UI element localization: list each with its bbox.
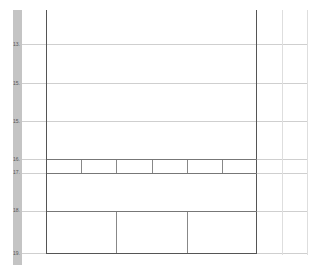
vertical-ruler — [13, 10, 22, 265]
table-cell[interactable] — [188, 212, 257, 253]
table-cell[interactable] — [153, 160, 188, 173]
ruler-label: 18. — [13, 207, 25, 213]
table-cell[interactable] — [188, 160, 223, 173]
guide-line-vertical — [307, 10, 308, 255]
guide-line-vertical — [282, 10, 283, 255]
table-row-three — [47, 211, 257, 254]
table-cell[interactable] — [82, 160, 117, 173]
table-cell[interactable] — [117, 212, 187, 253]
ruler-label: 13. — [13, 41, 25, 47]
ruler-label: 15. — [13, 80, 25, 86]
table-cell[interactable] — [117, 160, 152, 173]
ruler-label: 19. — [13, 250, 25, 256]
ruler-label: 17. — [13, 169, 25, 175]
table-cell[interactable] — [47, 160, 82, 173]
ruler-label: 15. — [13, 118, 25, 124]
table-cell[interactable] — [223, 160, 257, 173]
table-row-six — [47, 159, 257, 174]
table-cell[interactable] — [47, 212, 117, 253]
ruler-label: 16. — [13, 156, 25, 162]
